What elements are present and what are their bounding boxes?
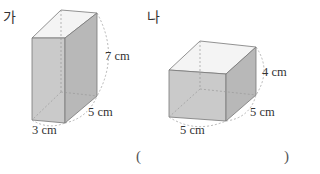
cuboid-na: 4 cm 5 cm 5 cm [169,41,287,137]
answer-open-paren: ( [136,148,141,165]
na-height-label: 4 cm [262,65,287,79]
answer-close-paren: ) [284,148,289,165]
na-width-label: 5 cm [180,123,205,137]
ga-height-label: 7 cm [105,49,130,63]
na-depth-label: 5 cm [250,105,275,119]
cuboid-na-front-face [169,70,226,121]
ga-depth-label: 5 cm [88,105,113,119]
cuboid-ga: 7 cm 5 cm 3 cm [32,10,130,137]
ga-width-label: 3 cm [32,123,57,137]
cuboid-ga-front-face [32,38,65,123]
answer-blank[interactable]: ( ) [134,148,291,170]
